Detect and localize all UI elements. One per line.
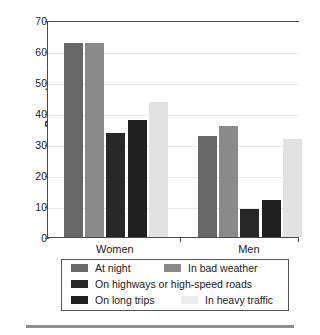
chart-figure: Percentage 010203040506070 WomenMen At n… [0, 0, 320, 335]
legend-label-in-heavy-traffic: In heavy traffic [205, 294, 273, 306]
legend-entry-in-heavy-traffic[interactable]: In heavy traffic [181, 294, 273, 306]
legend-entry-in-bad-weather[interactable]: In bad weather [164, 262, 257, 274]
bar[interactable] [64, 43, 83, 237]
y-tick-label: 70 [25, 16, 47, 26]
legend-label-at-night: At night [95, 262, 131, 274]
legend-row: On highways or high-speed roads [62, 276, 288, 292]
legend-swatch-in-bad-weather [164, 264, 181, 272]
bar[interactable] [85, 43, 104, 237]
chart-legend: At night In bad weather On highways or h… [61, 259, 289, 311]
bar[interactable] [262, 200, 281, 237]
legend-entry-at-night[interactable]: At night [71, 262, 131, 274]
bar[interactable] [149, 102, 168, 237]
bar-group-men [198, 22, 302, 237]
bar[interactable] [128, 120, 147, 237]
x-axis-end-tick [298, 238, 299, 242]
y-tick-label: 10 [25, 202, 47, 212]
legend-label-on-long-trips: On long trips [95, 294, 155, 306]
bottom-rule [26, 325, 294, 328]
bar-group-women [64, 22, 168, 237]
legend-swatch-in-heavy-traffic [181, 296, 198, 304]
y-tick-label: 20 [25, 171, 47, 181]
y-tick-label: 40 [25, 109, 47, 119]
legend-swatch-on-long-trips [71, 296, 88, 304]
x-tick-label-women: Women [70, 243, 160, 255]
bar[interactable] [283, 139, 302, 237]
bar[interactable] [106, 133, 125, 237]
y-tick-label: 30 [25, 140, 47, 150]
legend-swatch-on-highways [71, 280, 88, 288]
legend-entry-on-highways[interactable]: On highways or high-speed roads [71, 278, 252, 290]
x-axis-separator-tick [180, 238, 181, 242]
plot-area [47, 21, 299, 238]
y-axis-ticks: 010203040506070 [17, 0, 47, 335]
y-tick-label: 60 [25, 47, 47, 57]
x-tick-label-men: Men [204, 243, 294, 255]
y-tick-label: 0 [25, 233, 47, 243]
legend-label-in-bad-weather: In bad weather [188, 262, 257, 274]
legend-label-on-highways: On highways or high-speed roads [95, 278, 252, 290]
y-tick-label: 50 [25, 78, 47, 88]
legend-swatch-at-night [71, 264, 88, 272]
bar[interactable] [198, 136, 217, 237]
legend-row: At night In bad weather [62, 260, 288, 276]
legend-row: On long trips In heavy traffic [62, 292, 288, 308]
legend-entry-on-long-trips[interactable]: On long trips [71, 294, 155, 306]
bar[interactable] [219, 126, 238, 237]
bar[interactable] [240, 209, 259, 237]
